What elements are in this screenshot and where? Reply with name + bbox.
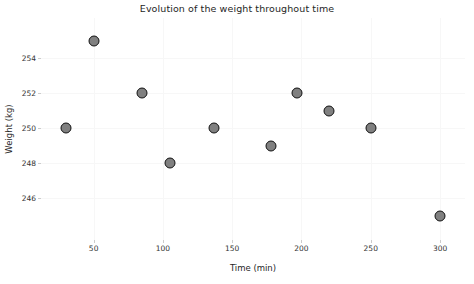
gridline-horizontal	[41, 93, 465, 94]
data-point	[209, 123, 220, 134]
gridline-vertical	[94, 18, 95, 240]
data-point	[266, 140, 277, 151]
y-tick-label: 248	[22, 159, 36, 168]
y-tick-label: 250	[22, 124, 36, 133]
y-tick-label: 254	[22, 54, 36, 63]
y-axis-label: Weight (kg)	[4, 104, 14, 153]
data-point	[365, 123, 376, 134]
y-tick-label: 252	[22, 89, 36, 98]
gridline-vertical	[232, 18, 233, 240]
x-tick-mark	[163, 240, 164, 243]
y-tick-mark	[38, 163, 41, 164]
x-tick-label: 250	[364, 244, 378, 253]
x-axis-label: Time (min)	[41, 263, 465, 273]
x-tick-mark	[371, 240, 372, 243]
y-tick-mark	[38, 58, 41, 59]
y-axis-label-container: Weight (kg)	[2, 18, 16, 240]
gridline-horizontal	[41, 128, 465, 129]
x-tick-label: 200	[294, 244, 308, 253]
y-tick-label: 246	[22, 194, 36, 203]
data-point	[324, 105, 335, 116]
x-tick-mark	[301, 240, 302, 243]
data-point	[292, 88, 303, 99]
gridline-horizontal	[41, 163, 465, 164]
data-point	[164, 158, 175, 169]
plot-area: 246248250252254 50100150200250300	[41, 18, 465, 240]
data-point	[435, 210, 446, 221]
chart-title: Evolution of the weight throughout time	[0, 3, 474, 14]
x-tick-label: 100	[156, 244, 170, 253]
gridline-vertical	[301, 18, 302, 240]
y-tick-mark	[38, 93, 41, 94]
data-point	[137, 88, 148, 99]
gridline-horizontal	[41, 198, 465, 199]
y-tick-mark	[38, 128, 41, 129]
data-point	[60, 123, 71, 134]
chart-figure: Evolution of the weight throughout time …	[0, 0, 474, 284]
x-tick-mark	[94, 240, 95, 243]
x-tick-label: 150	[225, 244, 239, 253]
gridline-horizontal	[41, 58, 465, 59]
x-tick-mark	[440, 240, 441, 243]
x-tick-mark	[232, 240, 233, 243]
gridline-vertical	[163, 18, 164, 240]
y-tick-mark	[38, 198, 41, 199]
x-tick-label: 300	[433, 244, 447, 253]
x-tick-label: 50	[89, 244, 99, 253]
gridline-vertical	[440, 18, 441, 240]
data-point	[88, 35, 99, 46]
